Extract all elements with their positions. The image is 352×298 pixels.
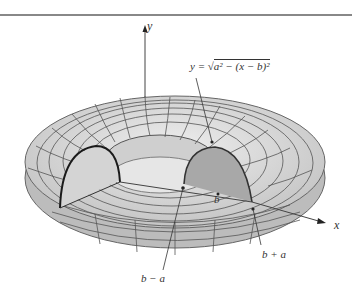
equation-lhs: y = (190, 60, 205, 72)
b-minus-a-label: b − a (141, 272, 165, 284)
equation-radicand: a² − (x − b)² (214, 59, 270, 72)
x-axis-arrow-icon (317, 218, 326, 224)
y-axis-label: y (147, 19, 152, 34)
equation-label: y = √a² − (x − b)² (190, 60, 270, 72)
x-axis-label: x (334, 218, 339, 233)
sqrt-icon: √ (208, 60, 214, 72)
torus-diagram (0, 0, 352, 298)
b-label: b (214, 193, 220, 205)
b-plus-a-label: b + a (262, 248, 286, 260)
